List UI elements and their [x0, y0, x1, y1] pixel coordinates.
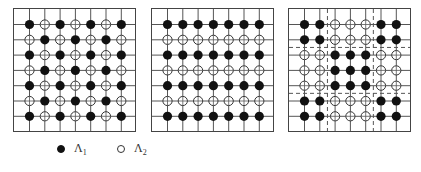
site-lambda1	[86, 81, 95, 90]
site-lambda1	[331, 51, 340, 60]
site-lambda1	[346, 51, 355, 60]
site-lambda1	[331, 66, 340, 75]
legend-item-lambda1: Λ1	[57, 141, 87, 157]
site-lambda1	[40, 66, 49, 75]
site-lambda1	[56, 81, 65, 90]
site-lambda1	[209, 81, 218, 90]
site-lambda1	[163, 51, 172, 60]
site-lambda1	[117, 112, 126, 121]
site-lambda1	[25, 51, 34, 60]
site-lambda1	[361, 51, 370, 60]
site-lambda1	[194, 51, 203, 60]
site-lambda1	[239, 20, 248, 29]
site-lambda1	[56, 112, 65, 121]
site-lambda1	[71, 96, 80, 105]
site-lambda1	[224, 51, 233, 60]
site-lambda1	[376, 35, 385, 44]
lattice-blocks	[289, 9, 410, 131]
site-lambda1	[331, 81, 340, 90]
site-lambda1	[178, 51, 187, 60]
site-lambda1	[86, 51, 95, 60]
legend-label-lambda1: Λ1	[74, 141, 87, 157]
legend: Λ1 Λ2	[0, 141, 421, 161]
site-lambda1	[163, 81, 172, 90]
site-lambda1	[117, 20, 126, 29]
site-lambda1	[255, 112, 264, 121]
site-lambda1	[101, 35, 110, 44]
site-lambda1	[239, 51, 248, 60]
site-lambda1	[86, 112, 95, 121]
legend-item-lambda2: Λ2	[117, 141, 147, 157]
site-lambda1	[300, 20, 309, 29]
site-lambda1	[209, 112, 218, 121]
site-lambda1	[361, 81, 370, 90]
site-lambda1	[239, 81, 248, 90]
site-lambda1	[376, 112, 385, 121]
open-circle-icon	[117, 145, 125, 153]
site-lambda1	[300, 112, 309, 121]
site-lambda1	[376, 20, 385, 29]
site-lambda1	[194, 112, 203, 121]
site-lambda1	[56, 20, 65, 29]
site-lambda1	[224, 81, 233, 90]
site-lambda1	[392, 112, 401, 121]
panel-blocks	[288, 8, 411, 132]
lattice-stripes	[152, 9, 273, 131]
filled-circle-icon	[57, 145, 65, 153]
site-lambda1	[255, 51, 264, 60]
site-lambda1	[300, 96, 309, 105]
site-lambda1	[117, 51, 126, 60]
site-lambda1	[25, 81, 34, 90]
site-lambda1	[117, 81, 126, 90]
site-lambda1	[361, 66, 370, 75]
site-lambda1	[224, 20, 233, 29]
site-lambda1	[315, 96, 324, 105]
site-lambda1	[346, 81, 355, 90]
panel-checkerboard	[13, 8, 136, 132]
panel-stripes	[151, 8, 274, 132]
site-lambda1	[194, 81, 203, 90]
site-lambda1	[392, 96, 401, 105]
site-lambda1	[40, 35, 49, 44]
site-lambda1	[25, 112, 34, 121]
site-lambda1	[300, 35, 309, 44]
site-lambda1	[40, 96, 49, 105]
site-lambda1	[71, 66, 80, 75]
site-lambda1	[315, 112, 324, 121]
site-lambda1	[392, 35, 401, 44]
site-lambda1	[101, 66, 110, 75]
site-lambda1	[224, 112, 233, 121]
site-lambda1	[209, 20, 218, 29]
site-lambda1	[163, 112, 172, 121]
site-lambda1	[392, 20, 401, 29]
site-lambda1	[178, 112, 187, 121]
site-lambda1	[86, 20, 95, 29]
site-lambda1	[346, 66, 355, 75]
site-lambda1	[239, 112, 248, 121]
site-lambda1	[163, 20, 172, 29]
legend-label-lambda2: Λ2	[134, 141, 147, 157]
site-lambda1	[255, 20, 264, 29]
site-lambda1	[209, 51, 218, 60]
site-lambda1	[101, 96, 110, 105]
site-lambda1	[25, 20, 34, 29]
site-lambda1	[255, 81, 264, 90]
site-lambda1	[376, 96, 385, 105]
site-lambda1	[178, 81, 187, 90]
site-lambda1	[178, 20, 187, 29]
site-lambda1	[56, 51, 65, 60]
site-lambda1	[71, 35, 80, 44]
site-lambda1	[194, 20, 203, 29]
site-lambda1	[315, 20, 324, 29]
lattice-checkerboard	[14, 9, 135, 131]
site-lambda1	[315, 35, 324, 44]
